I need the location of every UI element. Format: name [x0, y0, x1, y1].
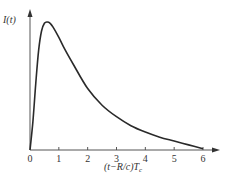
axes — [28, 9, 221, 153]
y-axis-label: I(t) — [2, 14, 16, 26]
x-tick-label: 2 — [85, 153, 90, 164]
series-line-i-t — [30, 22, 203, 150]
x-axis-label-subscript: c — [139, 166, 143, 174]
x-tick-label: 0 — [28, 153, 33, 164]
x-axis-label: (t−R/c)Tc — [104, 161, 143, 174]
y-axis-arrow-icon — [28, 9, 33, 17]
chart: 0123456 I(t) (t−R/c)Tc — [0, 0, 226, 181]
x-tick-label: 6 — [201, 153, 206, 164]
x-axis-arrow-icon — [212, 148, 220, 153]
x-tick-label: 4 — [143, 153, 148, 164]
x-tick-label: 1 — [56, 153, 61, 164]
x-tick-label: 5 — [172, 153, 177, 164]
